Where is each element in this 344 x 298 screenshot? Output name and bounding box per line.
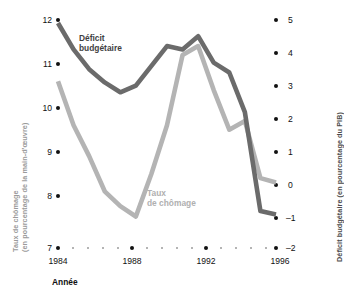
plot-area xyxy=(0,0,344,298)
chart-container: Taux de chômage(en pourcentage de la mai… xyxy=(0,0,344,298)
